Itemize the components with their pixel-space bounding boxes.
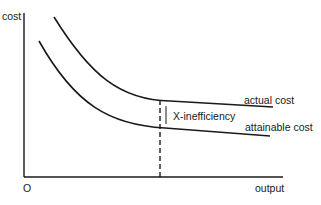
x-inefficiency-label: X-inefficiency bbox=[173, 111, 235, 122]
attainable-cost-label: attainable cost bbox=[245, 122, 313, 133]
x-axis-label: output bbox=[255, 183, 284, 194]
y-axis-label: cost bbox=[2, 11, 21, 22]
origin-label: O bbox=[23, 183, 31, 194]
x-inefficiency-diagram: cost O output actual cost attainable cos… bbox=[0, 0, 321, 205]
attainable-cost-curve bbox=[39, 41, 270, 136]
actual-cost-curve bbox=[54, 17, 273, 107]
actual-cost-label: actual cost bbox=[244, 95, 294, 106]
